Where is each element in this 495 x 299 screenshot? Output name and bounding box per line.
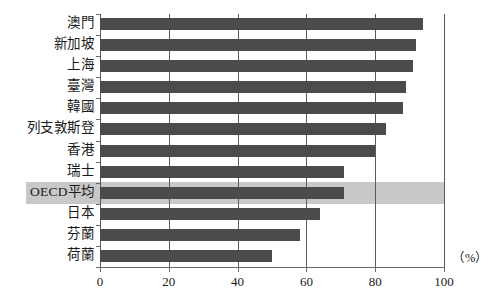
y-axis-tick bbox=[96, 35, 100, 36]
bar-澳門 bbox=[100, 18, 423, 30]
category-label-香港: 香港 bbox=[2, 140, 94, 161]
bar-row bbox=[100, 246, 444, 267]
x-axis-tick-label-80: 80 bbox=[355, 274, 395, 290]
x-axis-tick-label-40: 40 bbox=[218, 274, 258, 290]
category-label-新加坡: 新加坡 bbox=[2, 34, 94, 55]
bar-row bbox=[100, 183, 444, 204]
bar-荷蘭 bbox=[100, 250, 272, 262]
y-axis-tick bbox=[96, 77, 100, 78]
bar-row bbox=[100, 225, 444, 246]
bar-香港 bbox=[100, 145, 375, 157]
bar-瑞士 bbox=[100, 166, 344, 178]
x-axis-unit-label: （%） bbox=[452, 250, 488, 266]
y-axis-tick bbox=[96, 119, 100, 120]
x-axis-tick-label-60: 60 bbox=[286, 274, 326, 290]
category-label-列支敦斯登: 列支敦斯登 bbox=[2, 118, 94, 139]
bar-row bbox=[100, 119, 444, 140]
x-axis-tick-80 bbox=[375, 267, 376, 272]
bar-row bbox=[100, 35, 444, 56]
category-label-荷蘭: 荷蘭 bbox=[2, 245, 94, 266]
x-axis-tick-label-20: 20 bbox=[149, 274, 189, 290]
y-axis-tick bbox=[96, 14, 100, 15]
category-label-澳門: 澳門 bbox=[2, 13, 94, 34]
gridline-100 bbox=[444, 14, 445, 267]
bar-row bbox=[100, 141, 444, 162]
x-axis-tick-0 bbox=[100, 267, 101, 272]
x-axis-tick-100 bbox=[444, 267, 445, 272]
x-axis-tick-40 bbox=[238, 267, 239, 272]
y-axis-tick bbox=[96, 141, 100, 142]
bar-上海 bbox=[100, 60, 413, 72]
bar-row bbox=[100, 162, 444, 183]
plot-area bbox=[100, 14, 444, 267]
bar-row bbox=[100, 14, 444, 35]
bar-日本 bbox=[100, 208, 320, 220]
category-label-韓國: 韓國 bbox=[2, 97, 94, 118]
x-axis-tick-20 bbox=[169, 267, 170, 272]
y-axis-tick bbox=[96, 56, 100, 57]
y-axis-tick bbox=[96, 162, 100, 163]
category-label-瑞士: 瑞士 bbox=[2, 161, 94, 182]
x-axis-tick-60 bbox=[306, 267, 307, 272]
bar-列支敦斯登 bbox=[100, 123, 386, 135]
category-label-OECD平均: OECD平均 bbox=[2, 182, 94, 203]
y-axis-tick bbox=[96, 246, 100, 247]
bar-chart-figure: 澳門新加坡上海臺灣韓國列支敦斯登香港瑞士OECD平均日本芬蘭荷蘭 0204060… bbox=[0, 0, 495, 299]
bar-row bbox=[100, 77, 444, 98]
bar-新加坡 bbox=[100, 39, 416, 51]
y-axis-tick bbox=[96, 183, 100, 184]
y-axis-tick bbox=[96, 225, 100, 226]
bar-row bbox=[100, 56, 444, 77]
category-label-日本: 日本 bbox=[2, 203, 94, 224]
y-axis-tick bbox=[96, 204, 100, 205]
category-label-芬蘭: 芬蘭 bbox=[2, 224, 94, 245]
y-axis-tick bbox=[96, 267, 100, 268]
x-axis-baseline bbox=[100, 267, 445, 268]
x-axis-tick-label-0: 0 bbox=[80, 274, 120, 290]
x-axis-tick-label-100: 100 bbox=[424, 274, 464, 290]
bar-芬蘭 bbox=[100, 229, 300, 241]
bar-row bbox=[100, 204, 444, 225]
bar-韓國 bbox=[100, 102, 403, 114]
bar-OECD平均 bbox=[100, 187, 344, 199]
bar-臺灣 bbox=[100, 81, 406, 93]
category-label-上海: 上海 bbox=[2, 55, 94, 76]
bar-row bbox=[100, 98, 444, 119]
category-label-臺灣: 臺灣 bbox=[2, 76, 94, 97]
y-axis-tick bbox=[96, 98, 100, 99]
